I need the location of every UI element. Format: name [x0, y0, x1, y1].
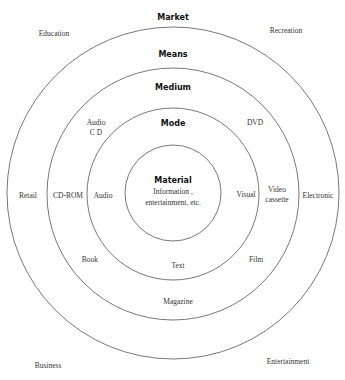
label-cd-rom: CD-ROM	[53, 191, 83, 201]
label-video-line1: Video	[265, 185, 288, 195]
label-retail: Retail	[19, 191, 37, 201]
material-line-2: entertainment, etc.	[145, 197, 201, 208]
heading-material: Material	[145, 175, 201, 186]
label-recreation: Recreation	[270, 26, 302, 36]
label-entertainment: Entertainment	[267, 357, 309, 367]
label-book: Book	[82, 255, 98, 265]
label-mode-audio: Audio	[94, 191, 113, 201]
material-line-1: Information ,	[145, 186, 201, 197]
label-electronic: Electronic	[303, 191, 334, 201]
label-dvd: DVD	[247, 118, 263, 128]
label-audio-cd-line2: C D	[87, 128, 106, 138]
heading-mode: Mode	[161, 119, 186, 129]
label-video-cassette: Video cassette	[265, 185, 288, 205]
label-audio-cd: Audio C D	[87, 118, 106, 138]
heading-market: Market	[157, 13, 189, 23]
label-film: Film	[249, 255, 263, 265]
label-mode-visual: Visual	[236, 190, 255, 200]
label-video-line2: cassette	[265, 195, 288, 205]
heading-means: Means	[158, 50, 187, 60]
heading-medium: Medium	[155, 83, 191, 93]
label-mode-text: Text	[171, 261, 184, 271]
label-audio-cd-line1: Audio	[87, 118, 106, 128]
label-education: Education	[39, 29, 69, 39]
label-magazine: Magazine	[163, 297, 193, 307]
material-block: Material Information , entertainment, et…	[145, 175, 201, 208]
label-business: Business	[35, 361, 62, 371]
